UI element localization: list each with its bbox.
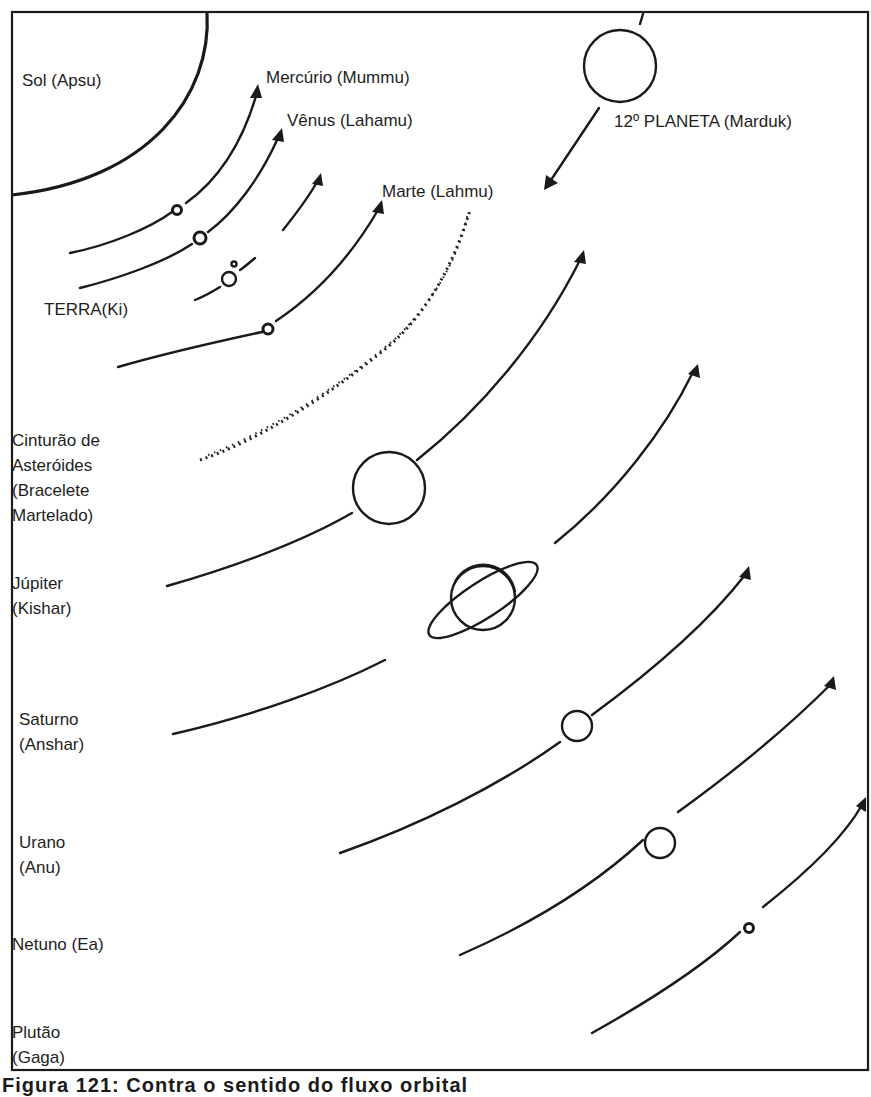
label-neptune: Netuno (Ea) [12,932,104,957]
label-earth: TERRA(Ki) [44,297,128,322]
uranus-orbit-icon [340,566,751,853]
frame-border [12,12,868,1070]
asteroid-belt-icon [200,210,470,460]
earth-orbit-icon [195,173,323,300]
neptune-orbit-icon [460,676,836,955]
label-saturn: Saturno (Anshar) [19,707,84,757]
earth-planet-icon [222,272,236,286]
label-uranus: Urano (Anu) [19,830,65,880]
moon-icon [232,262,237,267]
pluto-planet-icon [745,924,754,933]
jupiter-orbit-icon [167,250,586,586]
label-asteroid-belt: Cinturão de Asteróides (Bracelete Martel… [12,428,100,528]
neptune-planet-icon [645,828,675,858]
marduk-planet-icon [584,30,656,102]
label-pluto: Plutão (Gaga) [12,1020,65,1070]
venus-planet-icon [194,232,206,244]
label-mars: Marte (Lahmu) [382,179,493,204]
uranus-planet-icon [562,711,592,741]
saturn-planet-icon [420,550,547,650]
label-mercury: Mercúrio (Mummu) [266,65,410,90]
mars-orbit-icon [118,200,384,367]
sun-icon [12,12,207,195]
label-venus: Vênus (Lahamu) [287,108,413,133]
saturn-orbit-icon [173,364,700,734]
marduk-trajectory-icon [544,14,656,190]
pluto-orbit-icon [592,797,866,1033]
jupiter-planet-icon [353,452,425,524]
label-jupiter: Júpiter (Kishar) [12,571,72,621]
label-marduk: 12º PLANETA (Marduk) [614,109,792,134]
mercury-planet-icon [173,206,182,215]
mars-planet-icon [263,324,273,334]
label-sun: Sol (Apsu) [22,68,101,93]
mercury-orbit-icon [70,84,262,253]
figure-caption: Figura 121: Contra o sentido do fluxo or… [2,1074,468,1097]
